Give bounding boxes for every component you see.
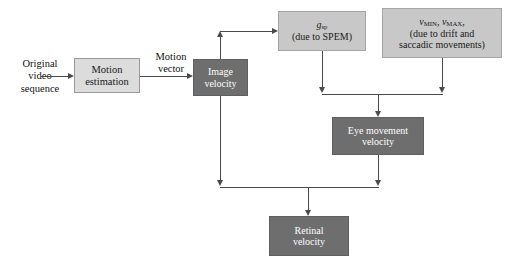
edge-eye-movement-down: [378, 155, 379, 182]
label-line: sequence: [10, 83, 70, 95]
arrowhead-image-velocity-to-bus: [217, 180, 223, 186]
node-label: gsp (due to SPEM): [290, 19, 354, 42]
node-retinal-velocity[interactable]: Retinalvelocity: [269, 216, 349, 256]
node-image-velocity[interactable]: Imagevelocity: [193, 59, 248, 96]
arrowhead-gsp-to-bus: [319, 87, 325, 93]
arrowhead-vminmax-to-bus: [439, 87, 445, 93]
edge-image-velocity-down: [220, 96, 221, 182]
node-label: Motionestimation: [83, 64, 131, 88]
label-line: Motion: [146, 51, 196, 63]
node-label: vMIN, vMAX, (due to drift and saccadic m…: [397, 16, 487, 50]
node-label: Eye movementvelocity: [346, 125, 410, 147]
merge-bus-retinal: [220, 187, 379, 188]
vminmax-caption-2: saccadic movements): [399, 39, 485, 50]
vmin-subscript: MIN: [424, 20, 437, 27]
edge-branch-to-gsp: [220, 31, 272, 32]
node-label: Retinalvelocity: [291, 225, 327, 247]
edge-vminmax-down: [442, 58, 443, 89]
gsp-subscript: sp: [321, 24, 327, 31]
edge-gsp-down: [322, 51, 323, 89]
edge-motion-estimation-to-image-velocity: [140, 76, 187, 77]
node-label: Imagevelocity: [202, 66, 238, 88]
node-eye-movement-velocity[interactable]: Eye movementvelocity: [332, 117, 424, 155]
vmax-subscript: MAX: [446, 20, 462, 27]
merge-bus-eye-movement: [322, 94, 443, 95]
gsp-caption: (due to SPEM): [292, 31, 352, 42]
label-line: Original: [10, 58, 70, 70]
node-motion-estimation[interactable]: Motionestimation: [74, 58, 140, 93]
arrowhead-eye-movement-to-bus: [375, 180, 381, 186]
node-gsp[interactable]: gsp (due to SPEM): [278, 11, 366, 51]
edge-bus-to-retinal-velocity: [308, 187, 309, 210]
edge-source-to-motion-estimation: [41, 76, 68, 77]
node-vmin-vmax[interactable]: vMIN, vMAX, (due to drift and saccadic m…: [382, 8, 502, 58]
vminmax-caption-1: (due to drift and: [410, 28, 475, 39]
diagram-canvas: Original video sequence Motion vector Mo…: [0, 0, 525, 270]
edge-bus-to-eye-movement: [378, 94, 379, 111]
edge-image-velocity-up-stem: [220, 37, 221, 59]
